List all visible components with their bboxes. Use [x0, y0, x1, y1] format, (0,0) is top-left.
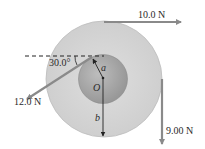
- force-label-10N: 10.0 N: [138, 9, 165, 20]
- force-label-9N: 9.00 N: [166, 125, 193, 136]
- angle-label: 30.0°: [49, 57, 71, 68]
- center-point: [102, 77, 105, 80]
- rotating-disk-diagram: 10.0 N 9.00 N 12.0 N 30.0° O a b: [0, 0, 205, 149]
- center-label: O: [93, 82, 100, 93]
- force-label-12N: 12.0 N: [14, 96, 41, 107]
- radius-b-label: b: [95, 112, 100, 123]
- radius-a-label: a: [101, 62, 106, 73]
